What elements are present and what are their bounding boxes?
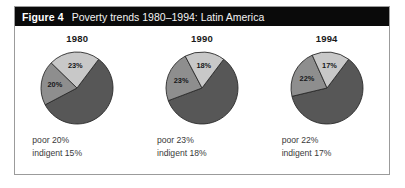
pie-chart-1990: 23%18% bbox=[164, 50, 240, 126]
pie-panel-1990: 199023%18%poor 23%indigent 18% bbox=[143, 26, 261, 159]
pie-slice-label-poor: 23% bbox=[174, 76, 189, 85]
pie-svg: 23%18% bbox=[164, 50, 240, 126]
pie-caption: poor 22%indigent 17% bbox=[268, 134, 332, 159]
pie-slice-label-indigent: 18% bbox=[196, 61, 211, 70]
caption-indigent: indigent 17% bbox=[282, 147, 332, 160]
caption-indigent: indigent 15% bbox=[32, 147, 82, 160]
pie-chart-strip: 198020%23%poor 20%indigent 15%199023%18%… bbox=[15, 26, 389, 175]
pie-slice-label-indigent: 23% bbox=[68, 61, 83, 70]
pie-panel-1994: 199422%17%poor 22%indigent 17% bbox=[268, 26, 386, 159]
caption-poor: poor 20% bbox=[32, 134, 82, 147]
figure-root: Figure 4 Poverty trends 1980–1994: Latin… bbox=[0, 0, 405, 188]
pie-chart-1994: 22%17% bbox=[289, 50, 365, 126]
figure-title: Poverty trends 1980–1994: Latin America bbox=[72, 11, 265, 23]
pie-year-label: 1980 bbox=[66, 33, 88, 44]
pie-svg: 22%17% bbox=[289, 50, 365, 126]
figure-title-bar: Figure 4 Poverty trends 1980–1994: Latin… bbox=[15, 7, 389, 26]
pie-slice-label-poor: 22% bbox=[299, 74, 314, 83]
pie-svg: 20%23% bbox=[39, 50, 115, 126]
pie-slice-label-poor: 20% bbox=[48, 80, 63, 89]
pie-year-label: 1994 bbox=[316, 33, 338, 44]
pie-chart-1980: 20%23% bbox=[39, 50, 115, 126]
pie-year-label: 1990 bbox=[191, 33, 213, 44]
pie-slice-label-indigent: 17% bbox=[322, 61, 337, 70]
pie-caption: poor 23%indigent 18% bbox=[143, 134, 207, 159]
caption-poor: poor 23% bbox=[157, 134, 207, 147]
caption-indigent: indigent 18% bbox=[157, 147, 207, 160]
pie-panel-1980: 198020%23%poor 20%indigent 15% bbox=[18, 26, 136, 159]
pie-caption: poor 20%indigent 15% bbox=[18, 134, 82, 159]
figure-box: Figure 4 Poverty trends 1980–1994: Latin… bbox=[14, 6, 390, 175]
figure-number: Figure 4 bbox=[22, 11, 64, 23]
caption-poor: poor 22% bbox=[282, 134, 332, 147]
